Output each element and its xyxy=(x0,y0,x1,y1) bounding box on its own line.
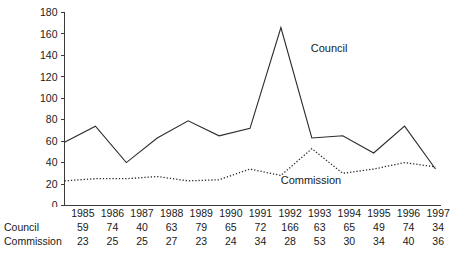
table-year-1996: 1996 xyxy=(394,206,424,220)
table-row-label-council: Council xyxy=(0,220,68,234)
table-row: Commission23252527232434285330344036 xyxy=(0,234,453,248)
table-cell-council-1992: 166 xyxy=(275,220,305,234)
table-cell-commission-1988: 27 xyxy=(157,234,187,248)
table-cell-commission-1990: 24 xyxy=(216,234,246,248)
series-line-council xyxy=(65,28,436,170)
table-year-1986: 1986 xyxy=(98,206,128,220)
y-tick-label-20: 20 xyxy=(46,178,58,190)
line-chart-figure: 020406080100120140160180 CouncilCommissi… xyxy=(0,0,453,257)
series-line-commission xyxy=(65,149,436,181)
table-cell-commission-1985: 23 xyxy=(68,234,98,248)
table-cell-commission-1995: 34 xyxy=(364,234,394,248)
table-cell-council-1990: 65 xyxy=(216,220,246,234)
value-table-body: Council597440637965721666365497434Commis… xyxy=(0,220,453,248)
table-year-1989: 1989 xyxy=(186,206,216,220)
table-cell-council-1993: 63 xyxy=(305,220,335,234)
table-cell-council-1994: 65 xyxy=(334,220,364,234)
table-year-1988: 1988 xyxy=(157,206,187,220)
table-cell-commission-1992: 28 xyxy=(275,234,305,248)
table-year-1995: 1995 xyxy=(364,206,394,220)
table-cell-council-1986: 74 xyxy=(98,220,128,234)
table-year-1997: 1997 xyxy=(423,206,453,220)
table-cell-council-1985: 59 xyxy=(68,220,98,234)
table-cell-council-1987: 40 xyxy=(127,220,157,234)
table-cell-commission-1986: 25 xyxy=(98,234,128,248)
table-cell-commission-1989: 23 xyxy=(186,234,216,248)
data-value-table: 1985198619871988198919901991199219931994… xyxy=(0,206,453,248)
table-cell-commission-1991: 34 xyxy=(246,234,276,248)
table-cell-council-1991: 72 xyxy=(246,220,276,234)
y-tick-label-60: 60 xyxy=(46,135,58,147)
table-year-1987: 1987 xyxy=(127,206,157,220)
y-axis-group: 020406080100120140160180 xyxy=(40,6,65,207)
chart-plot-area: 020406080100120140160180 CouncilCommissi… xyxy=(0,0,453,207)
table-row-years: 1985198619871988198919901991199219931994… xyxy=(0,206,453,220)
table-year-1990: 1990 xyxy=(216,206,246,220)
table-cell-council-1988: 63 xyxy=(157,220,187,234)
table-cell-commission-1987: 25 xyxy=(127,234,157,248)
y-tick-label-80: 80 xyxy=(46,113,58,125)
table-cell-council-1995: 49 xyxy=(364,220,394,234)
data-series-group xyxy=(65,28,436,181)
table-row-label-commission: Commission xyxy=(0,234,68,248)
table-year-1991: 1991 xyxy=(246,206,276,220)
y-axis-ticks xyxy=(61,13,65,206)
y-tick-label-40: 40 xyxy=(46,156,58,168)
table-cell-council-1989: 79 xyxy=(186,220,216,234)
table-cell-council-1996: 74 xyxy=(394,220,424,234)
table-cell-commission-1994: 30 xyxy=(334,234,364,248)
y-tick-label-160: 160 xyxy=(40,28,58,40)
table-year-1993: 1993 xyxy=(305,206,335,220)
table-year-1985: 1985 xyxy=(68,206,98,220)
y-tick-label-100: 100 xyxy=(40,92,58,104)
annotation-council: Council xyxy=(311,42,348,54)
table-cell-commission-1993: 53 xyxy=(305,234,335,248)
y-tick-label-180: 180 xyxy=(40,6,58,18)
annotation-commission: Commission xyxy=(281,174,342,186)
y-axis-tick-labels: 020406080100120140160180 xyxy=(40,6,58,207)
y-tick-label-140: 140 xyxy=(40,49,58,61)
table-cell-commission-1996: 40 xyxy=(394,234,424,248)
years-row-header xyxy=(0,206,68,220)
table-year-1992: 1992 xyxy=(275,206,305,220)
value-table: 1985198619871988198919901991199219931994… xyxy=(0,206,453,248)
y-tick-label-120: 120 xyxy=(40,71,58,83)
table-year-1994: 1994 xyxy=(334,206,364,220)
table-cell-commission-1997: 36 xyxy=(423,234,453,248)
table-row: Council597440637965721666365497434 xyxy=(0,220,453,234)
table-cell-council-1997: 34 xyxy=(423,220,453,234)
